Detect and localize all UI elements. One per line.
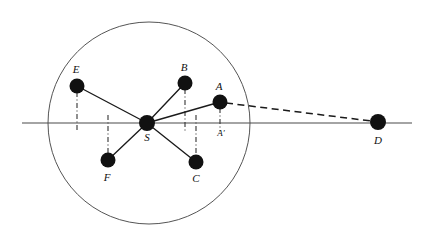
segment-A-D: [226, 103, 371, 121]
label-E: E: [72, 63, 80, 75]
label-F: F: [103, 171, 111, 183]
point-E[interactable]: [70, 79, 85, 94]
label-S: S: [144, 131, 150, 143]
label-A-prime: A′: [216, 128, 225, 138]
label-A: A: [215, 80, 223, 92]
segment-S-E: [77, 86, 147, 123]
label-C: C: [192, 172, 200, 184]
labels-group: S E B A F C D A′: [72, 61, 382, 184]
geometry-figure: S E B A F C D A′: [0, 0, 422, 235]
point-F[interactable]: [101, 153, 116, 168]
point-S[interactable]: [139, 115, 155, 131]
segment-S-A: [147, 102, 220, 123]
point-A[interactable]: [213, 95, 228, 110]
figure-canvas: S E B A F C D A′: [0, 0, 422, 235]
label-B: B: [181, 61, 188, 73]
segment-S-C: [147, 123, 196, 162]
point-D[interactable]: [370, 114, 386, 130]
point-B[interactable]: [178, 76, 193, 91]
segment-S-F: [108, 123, 147, 160]
label-D: D: [373, 134, 382, 146]
point-C[interactable]: [189, 155, 204, 170]
